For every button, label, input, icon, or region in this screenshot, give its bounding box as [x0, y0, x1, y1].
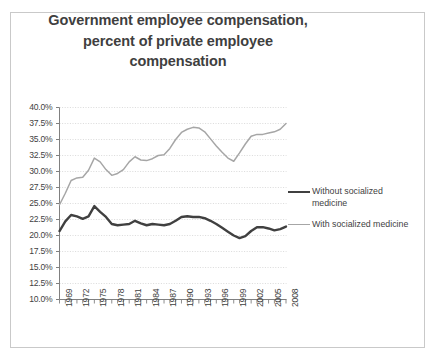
- y-axis-tick-label: 25.0%: [13, 198, 53, 208]
- y-axis-tick-label: 10.0%: [13, 294, 53, 304]
- x-axis-tick-label: 2005: [273, 288, 283, 306]
- x-axis-tick-label: 1981: [133, 288, 143, 306]
- legend-label-without: Without socialized medicine: [312, 186, 420, 210]
- y-axis-tick-label: 17.5%: [13, 246, 53, 256]
- y-axis-tick-label: 12.5%: [13, 278, 53, 288]
- legend-item-without-socialized-medicine[interactable]: Without socialized medicine: [288, 186, 420, 210]
- legend-line-icon-dark: [288, 191, 310, 193]
- x-axis-tick-label: 2002: [255, 288, 265, 306]
- x-axis-tick-label: 1975: [98, 288, 108, 306]
- y-axis-tick-label: 40.0%: [13, 102, 53, 112]
- legend-label-without-line2: medicine: [312, 198, 347, 208]
- x-axis-tick-label: 1969: [64, 288, 74, 306]
- x-axis-tick-label: 1999: [238, 288, 248, 306]
- legend-label-without-line1: Without socialized: [312, 186, 383, 196]
- plot-area: 40.0%37.5%35.0%32.5%30.0%27.5%25.0%22.5%…: [0, 0, 438, 361]
- series-line-without-socialized-medicine: [60, 206, 287, 238]
- y-axis-tick-label: 15.0%: [13, 262, 53, 272]
- x-axis-tick-label: 1978: [116, 288, 126, 306]
- y-axis-tick-label: 30.0%: [13, 166, 53, 176]
- y-axis-tick-label: 20.0%: [13, 230, 53, 240]
- legend-item-with-socialized-medicine[interactable]: With socialized medicine: [288, 219, 420, 231]
- x-axis-tick-label: 1993: [203, 288, 213, 306]
- legend-label-with: With socialized medicine: [312, 219, 420, 231]
- y-axis-tick-label: 37.5%: [13, 118, 53, 128]
- series-line-with-socialized-medicine: [60, 124, 287, 205]
- x-axis-tick-label: 2008: [290, 288, 300, 306]
- chart-legend: Without socialized medicine With sociali…: [288, 186, 420, 240]
- y-axis-tick-label: 22.5%: [13, 214, 53, 224]
- x-axis-tick-label: 1990: [185, 288, 195, 306]
- x-axis-tick-label: 1996: [220, 288, 230, 306]
- y-axis-tick-label: 35.0%: [13, 134, 53, 144]
- y-axis-tick-label: 32.5%: [13, 150, 53, 160]
- x-axis-tick-label: 1984: [151, 288, 161, 306]
- y-axis-tick-label: 27.5%: [13, 182, 53, 192]
- x-axis-tick-label: 1987: [168, 288, 178, 306]
- legend-line-icon-light: [288, 224, 310, 225]
- x-axis-tick-label: 1972: [81, 288, 91, 306]
